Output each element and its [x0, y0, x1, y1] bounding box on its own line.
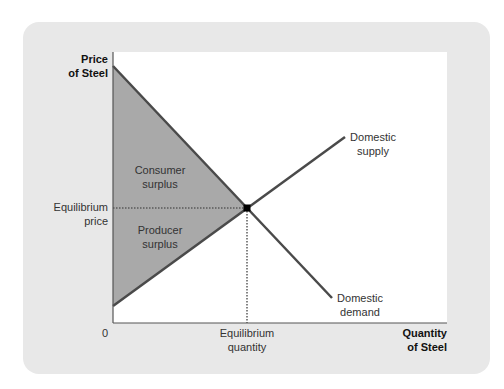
producer-surplus-line1: Producer: [128, 223, 192, 237]
eq-price-line1: Equilibrium: [30, 200, 108, 214]
demand-label-line1: Domestic: [332, 291, 388, 305]
equilibrium-point: [244, 205, 251, 212]
equilibrium-quantity-label: Equilibrium quantity: [207, 326, 287, 354]
equilibrium-price-label: Equilibrium price: [30, 200, 108, 228]
eq-quantity-line1: Equilibrium: [207, 326, 287, 340]
x-axis-label-line1: Quantity: [390, 326, 447, 340]
producer-surplus-label: Producer surplus: [128, 223, 192, 251]
consumer-surplus-line1: Consumer: [128, 163, 192, 177]
consumer-surplus-line2: surplus: [128, 177, 192, 191]
producer-surplus-line2: surplus: [128, 237, 192, 251]
x-axis-label-line2: of Steel: [390, 340, 447, 354]
origin-label: 0: [98, 326, 112, 340]
demand-label-line2: demand: [332, 305, 388, 319]
supply-label-line1: Domestic: [345, 130, 401, 144]
supply-label-line2: supply: [345, 144, 401, 158]
y-axis-label-line2: of Steel: [50, 66, 108, 80]
consumer-surplus-label: Consumer surplus: [128, 163, 192, 191]
demand-label: Domestic demand: [332, 291, 388, 319]
eq-price-line2: price: [30, 214, 108, 228]
eq-quantity-line2: quantity: [207, 340, 287, 354]
x-axis-label: Quantity of Steel: [390, 326, 447, 354]
y-axis-label-line1: Price: [50, 52, 108, 66]
supply-label: Domestic supply: [345, 130, 401, 158]
y-axis-label: Price of Steel: [50, 52, 108, 80]
